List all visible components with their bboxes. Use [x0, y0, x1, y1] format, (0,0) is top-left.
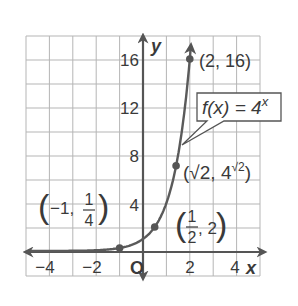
svg-text:−1,: −1, [50, 199, 74, 218]
origin-label: O [130, 258, 144, 278]
x-tick-neg4: −4 [35, 258, 54, 277]
data-point [151, 223, 159, 231]
x-tick-4: 4 [230, 258, 239, 277]
svg-text:f(x) = 4x: f(x) = 4x [202, 94, 269, 118]
y-tick-12: 12 [120, 99, 139, 118]
data-point [116, 244, 124, 252]
y-axis-label: y [150, 36, 162, 56]
exponential-graph: 16 12 8 4 −4 −2 2 4 O x y f(x) = 4x (2, … [0, 0, 298, 306]
y-tick-4: 4 [130, 196, 139, 215]
data-point [172, 162, 180, 170]
x-tick-neg2: −2 [82, 258, 101, 277]
point-label-neg1-quarter: ( −1, 1 4 ) [38, 187, 109, 229]
svg-text:1: 1 [188, 208, 197, 225]
point-label-half-2: ( 1 2 , 2 ) [175, 205, 227, 246]
svg-text:(: ( [175, 205, 187, 243]
x-tick-2: 2 [185, 258, 194, 277]
y-tick-8: 8 [130, 147, 139, 166]
y-tick-16: 16 [120, 51, 139, 70]
svg-text:): ) [216, 205, 227, 243]
svg-text:4: 4 [85, 212, 94, 229]
point-label-2-16: (2, 16) [199, 51, 251, 71]
svg-text:2: 2 [188, 229, 197, 246]
x-axis-label: x [245, 258, 257, 278]
function-exponent: x [261, 94, 269, 109]
function-label: f(x) = 4 [202, 97, 262, 118]
svg-text:, 2: , 2 [198, 219, 217, 238]
svg-text:(: ( [38, 187, 50, 225]
function-callout: f(x) = 4x [182, 93, 281, 145]
data-point [186, 55, 194, 63]
svg-text:): ) [98, 187, 109, 225]
svg-text:1: 1 [85, 191, 94, 208]
